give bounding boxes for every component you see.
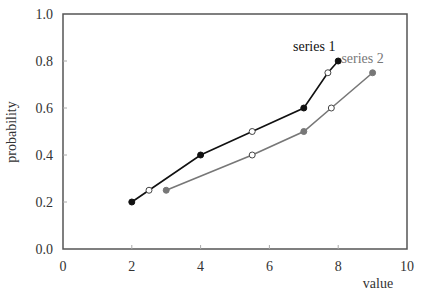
- series-label: series 2: [341, 51, 383, 66]
- series-layer: series 1series 2: [129, 39, 384, 205]
- x-tick-label: 8: [335, 259, 342, 274]
- filled-marker: [370, 70, 376, 76]
- series-label: series 1: [293, 39, 335, 54]
- filled-marker: [163, 187, 169, 193]
- open-marker: [146, 187, 152, 193]
- x-axis-title: value: [363, 276, 393, 291]
- y-tick-label: 0.0: [36, 242, 54, 257]
- filled-marker: [301, 129, 307, 135]
- open-marker: [325, 70, 331, 76]
- open-marker: [249, 152, 255, 158]
- x-tick-label: 6: [266, 259, 273, 274]
- filled-marker: [198, 152, 204, 158]
- series-line: [166, 73, 372, 191]
- axes: 02468100.00.20.40.60.81.0: [36, 7, 415, 274]
- series-1: series 1: [129, 39, 341, 205]
- y-tick-label: 1.0: [36, 7, 54, 22]
- filled-marker: [301, 105, 307, 111]
- x-tick-label: 4: [197, 259, 204, 274]
- filled-marker: [335, 58, 341, 64]
- y-tick-label: 0.8: [36, 54, 54, 69]
- x-tick-label: 2: [128, 259, 135, 274]
- y-axis-title: probability: [4, 101, 19, 162]
- plot-frame: [63, 14, 407, 249]
- y-tick-label: 0.4: [36, 148, 54, 163]
- y-tick-label: 0.6: [36, 101, 54, 116]
- x-tick-label: 0: [60, 259, 67, 274]
- open-marker: [328, 105, 334, 111]
- x-tick-label: 10: [400, 259, 414, 274]
- line-chart: 02468100.00.20.40.60.81.0 series 1series…: [0, 0, 426, 298]
- y-tick-label: 0.2: [36, 195, 54, 210]
- filled-marker: [129, 199, 135, 205]
- open-marker: [249, 129, 255, 135]
